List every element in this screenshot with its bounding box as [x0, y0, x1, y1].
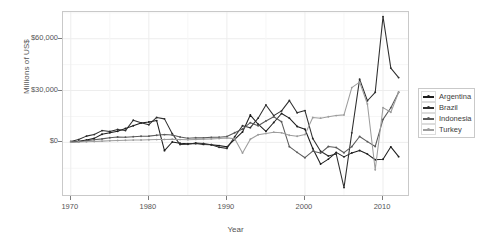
legend-item-turkey[interactable]: Turkey: [421, 124, 472, 135]
y-tick-0: $0: [0, 136, 58, 146]
legend: ArgentinaBrazilIndonesiaTurkey: [418, 88, 475, 138]
series-indonesia: [70, 91, 400, 158]
x-tick-label: 2010: [362, 202, 402, 211]
x-tick-label: 1970: [50, 202, 90, 211]
legend-line-icon: [421, 113, 436, 124]
legend-item-label: Turkey: [439, 125, 462, 134]
x-tick-label: 1980: [128, 202, 168, 211]
y-axis-title: Millions of US$: [22, 7, 31, 127]
x-tick-1: 1980: [128, 202, 168, 211]
x-tick-label: 1990: [206, 202, 246, 211]
x-tick-4: 2010: [362, 202, 402, 211]
x-tick-mark: [226, 196, 227, 200]
x-tick-mark: [382, 196, 383, 200]
legend-item-brazil[interactable]: Brazil: [421, 102, 472, 113]
series-brazil: [70, 16, 400, 189]
legend-item-indonesia[interactable]: Indonesia: [421, 113, 472, 124]
x-tick-mark: [70, 196, 71, 200]
series-turkey: [70, 81, 400, 171]
plot-panel: [62, 11, 409, 196]
legend-item-label: Brazil: [439, 103, 458, 112]
y-tick-2: $60,000: [0, 33, 58, 43]
legend-item-label: Indonesia: [439, 114, 472, 123]
y-tick-label: $30,000: [31, 85, 58, 94]
legend-line-icon: [421, 91, 436, 102]
x-tick-label: 2000: [284, 202, 324, 211]
x-tick-3: 2000: [284, 202, 324, 211]
legend-item-argentina[interactable]: Argentina: [421, 91, 472, 102]
y-tick-1: $30,000: [0, 85, 58, 95]
x-axis-title: Year: [62, 225, 409, 234]
legend-item-label: Argentina: [439, 92, 471, 101]
legend-line-icon: [421, 124, 436, 135]
x-tick-0: 1970: [50, 202, 90, 211]
chart-figure: Millions of US$ Year $0$30,000$60,000 19…: [0, 0, 489, 239]
y-tick-label: $0: [50, 136, 58, 145]
x-tick-mark: [148, 196, 149, 200]
x-tick-mark: [304, 196, 305, 200]
y-tick-label: $60,000: [31, 33, 58, 42]
plot-lines: [63, 12, 408, 195]
legend-line-icon: [421, 102, 436, 113]
x-tick-2: 1990: [206, 202, 246, 211]
